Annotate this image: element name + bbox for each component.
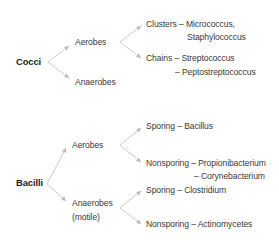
cocci-clusters-line2: Staphylococcus bbox=[187, 32, 246, 42]
cocci-clusters-line1: Clusters – Micrococcus, bbox=[146, 19, 235, 29]
arrowhead-icon bbox=[136, 220, 141, 224]
arrowhead-icon bbox=[136, 26, 141, 30]
cocci-label: Cocci bbox=[16, 57, 41, 67]
cocci-chains-line2: – Peptostreptococcus bbox=[175, 67, 256, 77]
bacilli-aerobes-sporing: Sporing – Bacillus bbox=[146, 121, 213, 131]
bacilli-label: Bacilli bbox=[16, 178, 43, 188]
arrowhead-icon bbox=[64, 46, 69, 50]
bacilli-anaerobes-sporing: Sporing – Clostridium bbox=[146, 185, 226, 195]
bacilli-anaerobes-motile: (motile) bbox=[72, 212, 100, 222]
bacilli-aerobes-nonsporing-line2: – Corynebacterium bbox=[194, 171, 265, 181]
cocci-aerobes-label: Aerobes bbox=[75, 37, 106, 47]
arrowhead-icon bbox=[64, 74, 69, 78]
bacilli-aerobes-label: Aerobes bbox=[72, 140, 103, 150]
bacilli-branch-line-upper bbox=[47, 148, 66, 184]
bacilli-aerobes-nonsporing-line1: Nonsporing – Propionibacterium bbox=[146, 158, 266, 168]
bacilli-anaerobes-nonsporing: Nonsporing – Actinomycetes bbox=[146, 219, 252, 229]
cocci-chains-line1: Chains – Streptococcus bbox=[146, 53, 235, 63]
bacilli-anaerobes-label: Anaerobes bbox=[72, 198, 113, 208]
cocci-anaerobes-label: Anaerobes bbox=[75, 77, 116, 87]
bacteria-classification-diagram: Cocci Aerobes Anaerobes Clusters – Micro… bbox=[0, 0, 279, 240]
arrowhead-icon bbox=[136, 54, 141, 58]
